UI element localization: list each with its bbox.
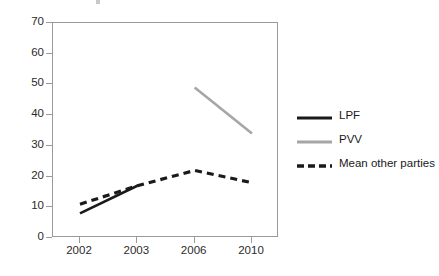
x-axis-tick-marks xyxy=(52,237,278,243)
y-axis-tick-label: 60 xyxy=(31,47,44,59)
y-axis-labels: 010203040506070 xyxy=(0,22,44,237)
legend-item-mean-other-parties[interactable]: Mean other parties xyxy=(297,152,437,176)
y-axis-tick-label: 70 xyxy=(31,16,44,28)
series-line-pvv xyxy=(195,88,252,134)
legend-item-label: PVV xyxy=(339,134,362,146)
x-axis-tick-label: 2002 xyxy=(66,245,92,257)
x-axis-tick-mark xyxy=(136,237,137,243)
series-line-mean-other-parties xyxy=(80,170,252,204)
y-axis-tick-label: 40 xyxy=(31,108,44,120)
x-axis-tick-mark xyxy=(79,237,80,243)
plot-area xyxy=(52,22,278,237)
x-axis-tick-label: 2006 xyxy=(181,245,207,257)
legend-swatch-icon xyxy=(297,134,332,146)
series-lines-svg xyxy=(53,23,279,238)
chart-legend: LPFPVVMean other parties xyxy=(297,104,437,176)
legend-swatch-icon xyxy=(297,158,332,170)
y-axis-tick-label: 30 xyxy=(31,139,44,151)
legend-item-lpf[interactable]: LPF xyxy=(297,104,437,128)
y-axis-tick-label: 20 xyxy=(31,170,44,182)
cropped-title-remnant xyxy=(96,0,100,4)
y-axis-tick-label: 0 xyxy=(38,231,44,243)
y-axis-tick-label: 50 xyxy=(31,78,44,90)
x-axis-tick-mark xyxy=(251,237,252,243)
legend-item-pvv[interactable]: PVV xyxy=(297,128,437,152)
x-axis-tick-label: 2010 xyxy=(238,245,264,257)
x-axis-labels: 2002200320062010 xyxy=(52,245,278,263)
line-chart-figure: 010203040506070 2002200320062010 LPFPVVM… xyxy=(0,0,439,276)
x-axis-tick-mark xyxy=(194,237,195,243)
x-axis-tick-label: 2003 xyxy=(124,245,150,257)
legend-item-label: LPF xyxy=(339,110,360,122)
y-axis-tick-label: 10 xyxy=(31,201,44,213)
legend-swatch-icon xyxy=(297,110,332,122)
legend-item-label: Mean other parties xyxy=(339,158,435,170)
